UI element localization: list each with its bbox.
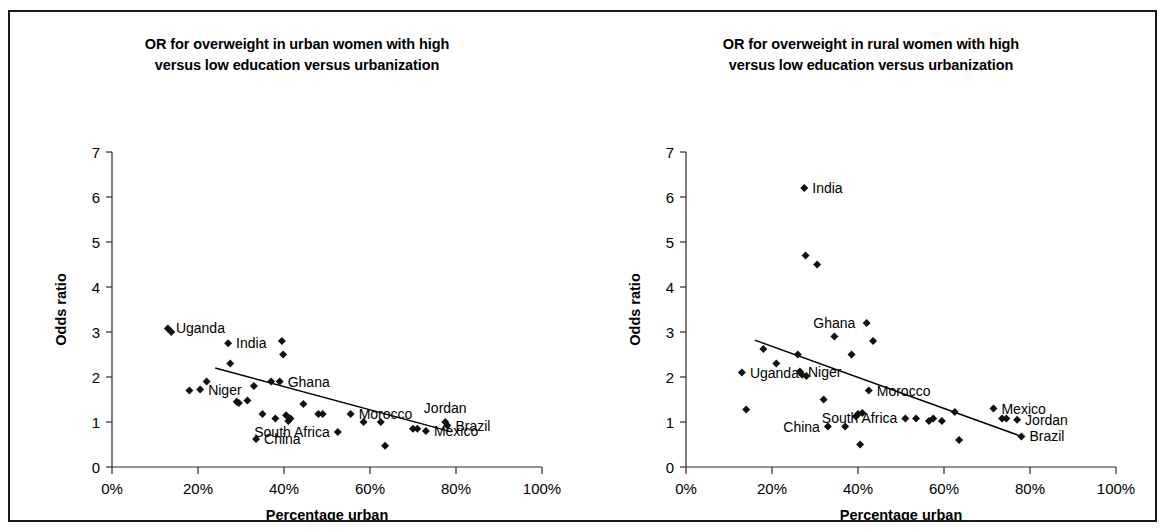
data-point-label: Jordan — [424, 400, 467, 416]
y-tick-label: 7 — [92, 144, 100, 161]
data-point-marker — [334, 428, 342, 436]
data-point-marker — [912, 414, 920, 422]
y-tick-label: 6 — [666, 189, 674, 206]
data-point-marker — [802, 252, 810, 260]
data-point-marker — [738, 369, 746, 377]
x-tick-label: 60% — [929, 480, 959, 497]
data-point-label: Jordan — [1025, 412, 1068, 428]
data-point-label: China — [783, 419, 820, 435]
data-point-marker — [951, 408, 959, 416]
y-tick-label: 2 — [666, 369, 674, 386]
y-tick-label: 0 — [666, 459, 674, 476]
data-point-marker — [381, 442, 389, 450]
y-tick-label: 2 — [92, 369, 100, 386]
data-point-label: Niger — [808, 364, 842, 380]
data-point-label: Niger — [208, 382, 242, 398]
x-tick-label: 20% — [183, 480, 213, 497]
data-point-label: South Africa — [822, 410, 898, 426]
data-point-label: Uganda — [750, 365, 799, 381]
chart-panel-rural: OR for overweight in rural women with hi… — [584, 12, 1158, 520]
data-point-marker — [955, 436, 963, 444]
data-point-marker — [319, 410, 327, 418]
y-tick-label: 4 — [92, 279, 100, 296]
data-point-marker — [869, 337, 877, 345]
y-axis-title: Odds ratio — [627, 273, 643, 346]
x-tick-label: 40% — [843, 480, 873, 497]
data-point-marker — [848, 351, 856, 359]
data-point-marker — [863, 319, 871, 327]
y-tick-label: 3 — [92, 324, 100, 341]
y-tick-label: 5 — [666, 234, 674, 251]
data-point-label: Morocco — [359, 406, 413, 422]
data-point-marker — [830, 333, 838, 341]
y-tick-label: 3 — [666, 324, 674, 341]
data-point-marker — [938, 417, 946, 425]
figure-frame: OR for overweight in urban women with hi… — [8, 10, 1157, 522]
data-point-label: Brazil — [455, 418, 490, 434]
data-point-marker — [865, 387, 873, 395]
data-point-marker — [226, 360, 234, 368]
data-point-marker — [989, 405, 997, 413]
data-point-marker — [299, 400, 307, 408]
data-point-marker — [259, 410, 267, 418]
x-tick-label: 80% — [1015, 480, 1045, 497]
data-point-marker — [1013, 416, 1021, 424]
y-tick-label: 5 — [92, 234, 100, 251]
data-point-marker — [856, 441, 864, 449]
data-point-marker — [347, 410, 355, 418]
data-point-label: Morocco — [877, 383, 931, 399]
data-point-label: India — [236, 335, 267, 351]
data-point-label: South Africa — [254, 424, 330, 440]
x-tick-label: 60% — [355, 480, 385, 497]
data-point-label: Brazil — [1029, 428, 1064, 444]
data-point-marker — [800, 184, 808, 192]
scatter-plot-rural: 012345670%20%40%60%80%100%Percentage urb… — [584, 12, 1158, 520]
data-point-label: Uganda — [176, 320, 225, 336]
data-point-marker — [224, 339, 232, 347]
data-point-marker — [278, 337, 286, 345]
data-point-marker — [250, 382, 258, 390]
data-point-label: Ghana — [288, 374, 330, 390]
x-tick-label: 20% — [757, 480, 787, 497]
x-tick-label: 80% — [441, 480, 471, 497]
x-tick-label: 100% — [523, 480, 561, 497]
data-point-marker — [271, 414, 279, 422]
y-tick-label: 4 — [666, 279, 674, 296]
x-tick-label: 40% — [269, 480, 299, 497]
x-tick-label: 0% — [675, 480, 697, 497]
data-point-marker — [185, 387, 193, 395]
data-point-marker — [742, 405, 750, 413]
y-tick-label: 1 — [92, 414, 100, 431]
data-point-marker — [759, 345, 767, 353]
data-point-marker — [813, 261, 821, 269]
data-point-marker — [901, 414, 909, 422]
scatter-plot-urban: 012345670%20%40%60%80%100%Percentage urb… — [10, 12, 584, 520]
data-point-marker — [422, 427, 430, 435]
data-point-label: India — [812, 180, 843, 196]
data-point-marker — [243, 396, 251, 404]
x-tick-label: 100% — [1097, 480, 1135, 497]
data-point-marker — [820, 396, 828, 404]
data-point-marker — [196, 386, 204, 394]
y-tick-label: 6 — [92, 189, 100, 206]
data-point-marker — [279, 351, 287, 359]
data-point-label: Ghana — [813, 315, 855, 331]
y-tick-label: 1 — [666, 414, 674, 431]
y-tick-label: 7 — [666, 144, 674, 161]
x-axis-title: Percentage urban — [840, 507, 963, 520]
y-axis-title: Odds ratio — [53, 273, 69, 346]
x-axis-title: Percentage urban — [266, 507, 389, 520]
chart-panel-urban: OR for overweight in urban women with hi… — [10, 12, 584, 520]
x-tick-label: 0% — [101, 480, 123, 497]
y-tick-label: 0 — [92, 459, 100, 476]
data-point-marker — [1017, 432, 1025, 440]
data-point-marker — [413, 425, 421, 433]
